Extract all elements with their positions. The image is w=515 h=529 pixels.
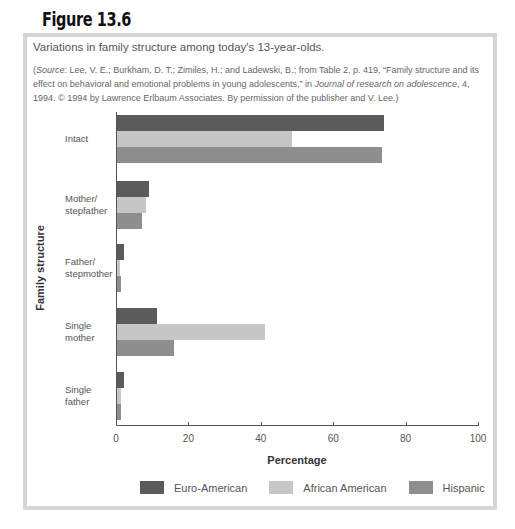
bar-hispanic <box>117 340 174 356</box>
legend-item-african-american: African American <box>269 481 386 494</box>
y-axis-line <box>116 112 117 425</box>
source-label: Source <box>36 65 65 75</box>
x-tick-label: 60 <box>328 433 339 444</box>
bar-hispanic <box>117 147 382 163</box>
source-journal: Journal of research on adolescence <box>315 79 458 89</box>
legend-item-euro-american: Euro-American <box>140 481 247 494</box>
bar-african-american <box>117 131 292 147</box>
bar-african-american <box>117 324 265 340</box>
legend-label: Hispanic <box>443 482 485 494</box>
x-axis-line <box>116 425 478 426</box>
bar-african-american <box>117 260 120 276</box>
x-tick <box>406 422 407 426</box>
bar-african-american <box>117 197 146 213</box>
bar-euro-american <box>117 372 124 388</box>
bar-hispanic <box>117 276 121 292</box>
x-tick-label: 100 <box>470 433 487 444</box>
category-label: Intact <box>65 133 88 145</box>
category-label: Singlemother <box>65 320 95 344</box>
bar-african-american <box>117 388 121 404</box>
legend-item-hispanic: Hispanic <box>409 481 485 494</box>
x-tick-label: 0 <box>113 433 119 444</box>
bar-euro-american <box>117 244 124 260</box>
category-label: Singlefather <box>65 384 91 408</box>
y-axis-label: Family structure <box>34 225 46 311</box>
legend-label: African American <box>303 482 386 494</box>
bar-euro-american <box>117 115 384 131</box>
bar-hispanic <box>117 404 121 420</box>
x-tick <box>188 422 189 426</box>
legend: Euro-American African American Hispanic <box>140 481 507 494</box>
x-tick-label: 40 <box>255 433 266 444</box>
legend-swatch-hispanic <box>409 481 433 494</box>
x-tick <box>333 422 334 426</box>
x-tick-label: 80 <box>400 433 411 444</box>
bar-euro-american <box>117 181 149 197</box>
category-label: Mother/stepfather <box>65 193 107 217</box>
figure-caption: Variations in family structure among tod… <box>33 41 483 53</box>
category-label: Father/stepmother <box>65 256 113 280</box>
bar-euro-american <box>117 308 157 324</box>
x-tick <box>261 422 262 426</box>
x-tick <box>116 422 117 426</box>
x-tick-label: 20 <box>183 433 194 444</box>
legend-swatch-euro-american <box>140 481 164 494</box>
figure-number: Figure 13.6 <box>42 8 131 30</box>
x-tick <box>478 422 479 426</box>
bar-hispanic <box>117 213 142 229</box>
x-axis-label: Percentage <box>267 454 326 466</box>
legend-label: Euro-American <box>174 482 247 494</box>
legend-swatch-african-american <box>269 481 293 494</box>
figure-source: (Source: Lee, V. E.; Burkham, D. T.; Zim… <box>33 63 488 105</box>
